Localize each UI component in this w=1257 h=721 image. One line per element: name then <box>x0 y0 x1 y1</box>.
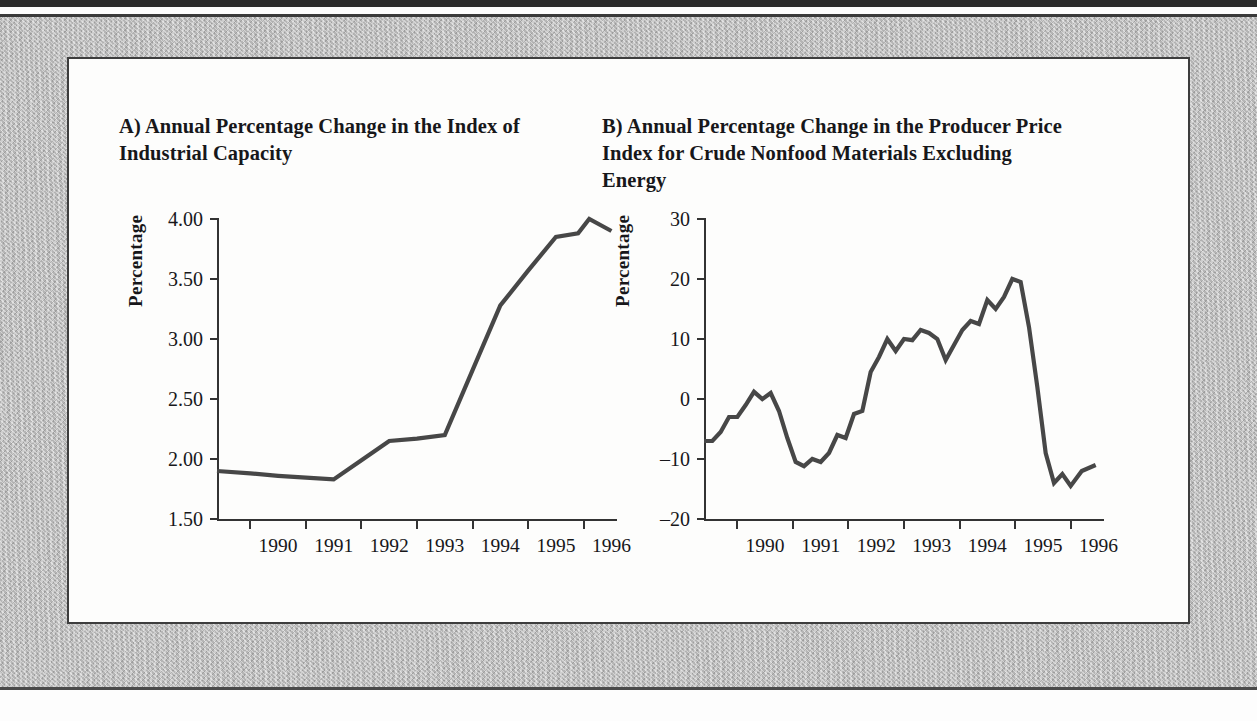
chart-a-y-tick <box>210 338 219 340</box>
chart-a-x-tick-label: 1993 <box>425 535 464 557</box>
chart-b-y-tick-label: –10 <box>660 448 690 471</box>
chart-a-x-tick <box>527 519 529 529</box>
top-rule-band <box>0 0 1257 7</box>
chart-a-series-line <box>217 219 611 479</box>
chart-b-y-tick-label: –20 <box>660 508 690 531</box>
chart-b-series-svg <box>704 219 1104 519</box>
chart-b-title: B) Annual Percentage Change in the Produ… <box>602 113 1072 194</box>
chart-b-x-tick-label: 1993 <box>912 535 951 557</box>
chart-a-x-tick <box>360 519 362 529</box>
chart-b-series-line <box>704 279 1096 486</box>
chart-a-x-tick <box>416 519 418 529</box>
chart-a-x-tick-label: 1991 <box>314 535 353 557</box>
chart-a-y-tick-label: 4.00 <box>168 208 203 231</box>
chart-b-y-tick-label: 30 <box>670 208 690 231</box>
chart-a-plot-area: 1.502.002.503.003.504.001990199119921993… <box>217 219 617 519</box>
chart-a-x-tick <box>249 519 251 529</box>
figure-page: A) Annual Percentage Change in the Index… <box>0 0 1257 721</box>
chart-a: Percentage 1.502.002.503.003.504.0019901… <box>107 209 637 599</box>
chart-a-x-tick-label: 1990 <box>259 535 298 557</box>
chart-b-x-tick <box>1070 519 1072 529</box>
chart-b-x-tick <box>847 519 849 529</box>
chart-a-x-tick <box>305 519 307 529</box>
chart-b-x-tick <box>903 519 905 529</box>
chart-b-y-tick-label: 10 <box>670 328 690 351</box>
chart-a-y-tick-label: 1.50 <box>168 508 203 531</box>
chart-b: Percentage –20–1001020301990199119921993… <box>594 209 1124 599</box>
chart-b-x-tick-label: 1991 <box>801 535 840 557</box>
chart-a-y-tick <box>210 458 219 460</box>
chart-b-plot-area: –20–100102030199019911992199319941995199… <box>704 219 1104 519</box>
chart-b-x-tick <box>1014 519 1016 529</box>
chart-a-x-tick <box>583 519 585 529</box>
chart-b-y-tick <box>697 278 706 280</box>
chart-b-x-tick-label: 1990 <box>746 535 785 557</box>
chart-a-y-tick-label: 3.00 <box>168 328 203 351</box>
chart-a-y-tick-label: 2.00 <box>168 448 203 471</box>
chart-b-y-tick <box>697 458 706 460</box>
chart-b-y-tick-label: 20 <box>670 268 690 291</box>
chart-b-y-axis-title: Percentage <box>612 215 634 307</box>
chart-a-y-tick-label: 3.50 <box>168 268 203 291</box>
chart-b-y-tick <box>697 218 706 220</box>
figure-panel: A) Annual Percentage Change in the Index… <box>67 57 1190 624</box>
chart-b-x-tick <box>792 519 794 529</box>
chart-b-y-tick <box>697 338 706 340</box>
chart-a-y-tick <box>210 218 219 220</box>
chart-b-x-tick <box>736 519 738 529</box>
chart-a-y-tick <box>210 518 219 520</box>
chart-b-x-tick-label: 1995 <box>1023 535 1062 557</box>
chart-a-x-tick <box>472 519 474 529</box>
chart-a-y-axis-title: Percentage <box>125 215 147 307</box>
chart-b-x-tick <box>959 519 961 529</box>
chart-b-x-tick-label: 1992 <box>857 535 896 557</box>
chart-b-y-tick <box>697 398 706 400</box>
chart-a-x-tick-label: 1992 <box>370 535 409 557</box>
chart-b-y-tick <box>697 518 706 520</box>
chart-b-x-tick-label: 1994 <box>968 535 1007 557</box>
chart-a-x-tick-label: 1995 <box>536 535 575 557</box>
chart-a-title: A) Annual Percentage Change in the Index… <box>119 113 579 167</box>
chart-b-y-tick-label: 0 <box>680 388 690 411</box>
chart-a-x-tick-label: 1994 <box>481 535 520 557</box>
chart-a-y-tick <box>210 278 219 280</box>
chart-a-series-svg <box>217 219 617 519</box>
bottom-rule-thin <box>0 687 1257 690</box>
chart-a-y-tick-label: 2.50 <box>168 388 203 411</box>
chart-a-y-tick <box>210 398 219 400</box>
chart-b-x-tick-label: 1996 <box>1079 535 1118 557</box>
